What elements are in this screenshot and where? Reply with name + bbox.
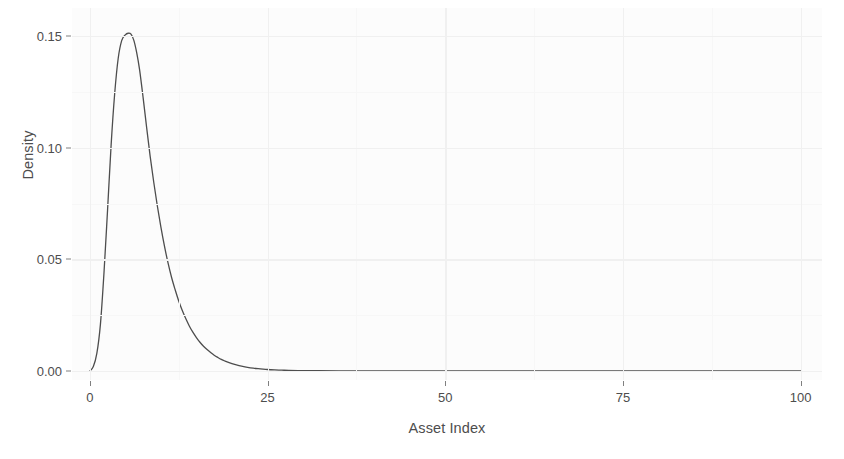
page-margin-band	[0, 446, 844, 459]
y-axis-tick-label: 0.00	[18, 364, 62, 379]
y-axis-tick-mark	[66, 35, 71, 36]
x-axis-tick-label: 25	[238, 390, 298, 405]
gridline-major-horizontal	[72, 259, 822, 260]
gridline-major-vertical	[623, 8, 624, 380]
x-axis-title: Asset Index	[72, 420, 822, 436]
gridline-major-vertical	[445, 8, 446, 380]
gridline-minor-vertical	[179, 8, 180, 380]
y-axis-tick-label: 0.05	[18, 252, 62, 267]
gridline-major-vertical	[268, 8, 269, 380]
x-axis-tick-mark	[445, 381, 446, 386]
plot-panel	[72, 8, 822, 380]
y-axis-tick-label: 0.10	[18, 140, 62, 155]
gridline-minor-horizontal	[72, 92, 822, 93]
gridline-major-vertical	[90, 8, 91, 380]
gridline-minor-horizontal	[72, 315, 822, 316]
gridline-minor-vertical	[356, 8, 357, 380]
y-axis-tick-mark	[66, 259, 71, 260]
gridline-minor-vertical	[712, 8, 713, 380]
y-axis-tick-label: 0.15	[18, 28, 62, 43]
x-axis-tick-mark	[801, 381, 802, 386]
x-axis-tick-mark	[268, 381, 269, 386]
gridline-minor-vertical	[534, 8, 535, 380]
gridline-major-vertical	[801, 8, 802, 380]
gridline-minor-horizontal	[72, 204, 822, 205]
x-axis-tick-label: 75	[593, 390, 653, 405]
density-plot-figure: Density 0.000.050.100.15 0255075100 Asse…	[0, 0, 844, 459]
gridline-major-horizontal	[72, 371, 822, 372]
x-axis-tick-label: 50	[415, 390, 475, 405]
y-axis-tick-mark	[66, 147, 71, 148]
x-axis-tick-label: 0	[60, 390, 120, 405]
x-axis-tick-mark	[90, 381, 91, 386]
density-curve-svg	[72, 8, 822, 380]
y-axis-tick-labels: 0.000.050.100.15	[14, 0, 62, 459]
x-axis-tick-label: 100	[771, 390, 831, 405]
gridline-major-horizontal	[72, 148, 822, 149]
y-axis-tick-mark	[66, 371, 71, 372]
x-axis-tick-mark	[623, 381, 624, 386]
gridline-major-horizontal	[72, 36, 822, 37]
